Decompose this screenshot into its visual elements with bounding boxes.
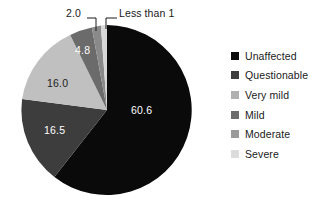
slice-label-severe: Less than 1	[119, 7, 174, 19]
legend-swatch-questionable	[231, 71, 239, 79]
legend-label-questionable: Questionable	[245, 69, 308, 81]
slice-label-very-mild: 16.0	[47, 77, 68, 89]
legend-swatch-very-mild	[231, 91, 239, 99]
pie-plot-area: 60.6 16.5 16.0 4.8 2.0 Less than 1	[0, 0, 205, 203]
legend-label-moderate: Moderate	[245, 128, 290, 140]
slice-label-questionable: 16.5	[44, 124, 65, 136]
pie-svg	[0, 0, 205, 203]
slice-label-unaffected: 60.6	[131, 104, 152, 116]
legend-swatch-moderate	[231, 130, 239, 138]
slice-label-mild: 4.8	[75, 44, 90, 56]
legend-label-unaffected: Unaffected	[245, 50, 297, 62]
legend-label-severe: Severe	[245, 148, 279, 160]
legend-swatch-unaffected	[231, 52, 239, 60]
legend-item-questionable[interactable]: Questionable	[231, 66, 317, 86]
legend-swatch-mild	[231, 111, 239, 119]
legend-label-very-mild: Very mild	[245, 89, 289, 101]
legend-item-unaffected[interactable]: Unaffected	[231, 46, 317, 66]
chart-legend: Unaffected Questionable Very mild Mild M…	[231, 46, 317, 164]
legend-item-very-mild[interactable]: Very mild	[231, 85, 317, 105]
legend-swatch-severe	[231, 150, 239, 158]
pie-chart-figure: 60.6 16.5 16.0 4.8 2.0 Less than 1 Unaff…	[0, 0, 317, 203]
legend-label-mild: Mild	[245, 109, 265, 121]
legend-item-moderate[interactable]: Moderate	[231, 124, 317, 144]
slice-label-moderate: 2.0	[66, 7, 81, 19]
legend-item-mild[interactable]: Mild	[231, 105, 317, 125]
legend-item-severe[interactable]: Severe	[231, 144, 317, 164]
